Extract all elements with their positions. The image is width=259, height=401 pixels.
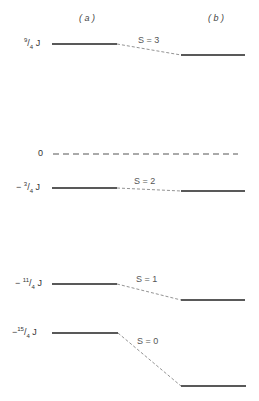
connector-s3 [117,44,181,55]
energy-label-s1: − 11/4 J [15,277,42,290]
unit: J [32,327,37,337]
unit: J [37,278,42,288]
energy-level-diagram [0,0,259,401]
numerator: 9 [24,37,27,43]
numerator: 11 [23,277,29,283]
unit: J [36,38,41,48]
denominator: 4 [30,188,33,194]
zero-label: 0 [38,148,43,158]
energy-label-s2: − 3/4 J [16,181,40,194]
sign: − [15,278,20,288]
spin-label-s1: S = 1 [136,274,157,284]
spin-label-s3: S = 3 [138,35,159,45]
energy-label-s0: −15/4 J [12,326,37,339]
numerator: 15 [17,326,24,332]
energy-label-s3: 9/4 J [24,37,40,50]
connector-s2 [117,188,181,191]
unit: J [36,182,41,192]
spin-label-s2: S = 2 [134,176,155,186]
numerator: 3 [24,181,27,187]
denominator: 4 [26,333,29,339]
connector-s1 [117,284,181,300]
denominator: 4 [30,44,33,50]
denominator: 4 [32,284,35,290]
sign: − [16,182,21,192]
spin-label-s0: S = 0 [137,336,158,346]
